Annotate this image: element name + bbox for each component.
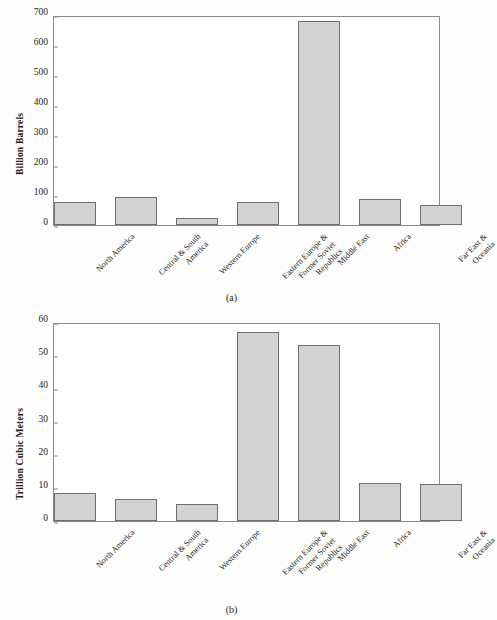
x-axis-category-label: Far East &Oceania bbox=[457, 232, 497, 273]
bar bbox=[420, 484, 462, 521]
bar bbox=[298, 21, 340, 225]
figure-panel-b: Trillion Cubic Meters 0102030405060 Nort… bbox=[0, 310, 463, 620]
bars-group-b bbox=[54, 324, 439, 521]
bars-group-a bbox=[54, 17, 439, 225]
x-axis-category-label: Eastern Europe &Former SovietRepublics bbox=[281, 232, 346, 297]
figure-panel-a: Billion Barrels 0100200300400500600700 N… bbox=[0, 0, 463, 310]
x-axis-category-label: Africa bbox=[391, 232, 414, 255]
x-axis-category-line: North America bbox=[95, 232, 138, 275]
y-tick-label: 50 bbox=[39, 347, 49, 357]
x-axis-category-line: Africa bbox=[391, 528, 414, 551]
y-tick-label: 10 bbox=[39, 480, 49, 490]
x-axis-category-label: Western Europe bbox=[218, 232, 263, 277]
bar bbox=[115, 197, 157, 225]
bar bbox=[54, 202, 96, 225]
x-axis-category-label: Western Europe bbox=[218, 528, 263, 573]
y-axis-title-a: Billion Barrels bbox=[15, 113, 25, 175]
bar bbox=[54, 493, 96, 521]
bar bbox=[237, 202, 279, 225]
x-axis-category-label: Africa bbox=[391, 528, 414, 551]
x-axis-category-label: Central & SouthAmerica bbox=[157, 232, 211, 286]
x-axis-category-label: Far East &Oceania bbox=[457, 528, 497, 569]
x-axis-category-label: North America bbox=[95, 528, 138, 571]
x-axis-category-label: Central & SouthAmerica bbox=[157, 528, 211, 582]
bar bbox=[359, 483, 401, 521]
bar bbox=[176, 504, 218, 521]
y-tick-label: 700 bbox=[34, 7, 48, 17]
y-tick-label: 200 bbox=[34, 157, 48, 167]
y-tick-label: 60 bbox=[39, 314, 49, 324]
bar bbox=[237, 332, 279, 521]
plot-area-b: 0102030405060 bbox=[53, 323, 440, 522]
x-axis-category-line: Western Europe bbox=[218, 528, 263, 573]
y-tick-label: 40 bbox=[39, 380, 49, 390]
x-axis-category-line: Africa bbox=[391, 232, 414, 255]
y-tick-label: 300 bbox=[34, 127, 48, 137]
x-axis-category-line: North America bbox=[95, 528, 138, 571]
bar bbox=[298, 345, 340, 521]
bar bbox=[115, 499, 157, 521]
plot-area-a: 0100200300400500600700 bbox=[53, 16, 440, 226]
y-tick-label: 600 bbox=[34, 37, 48, 47]
x-axis-category-line: Western Europe bbox=[218, 232, 263, 277]
x-axis-category-label: Eastern Europe &Former SovietRepublics bbox=[281, 528, 346, 593]
bar bbox=[359, 199, 401, 225]
y-tick-label: 400 bbox=[34, 97, 48, 107]
bar bbox=[176, 218, 218, 225]
y-axis-title-b: Trillion Cubic Meters bbox=[15, 408, 25, 500]
y-tick-label: 0 bbox=[43, 217, 48, 227]
x-axis-category-label: North America bbox=[95, 232, 138, 275]
bar bbox=[420, 205, 462, 225]
y-tick-mark bbox=[54, 226, 58, 227]
y-tick-label: 500 bbox=[34, 67, 48, 77]
panel-caption-b: (b) bbox=[0, 604, 463, 615]
y-tick-label: 30 bbox=[39, 414, 49, 424]
panel-caption-a: (a) bbox=[0, 292, 463, 303]
y-tick-label: 0 bbox=[43, 513, 48, 523]
y-tick-mark bbox=[54, 522, 58, 523]
y-tick-label: 100 bbox=[34, 187, 48, 197]
y-tick-label: 20 bbox=[39, 447, 49, 457]
